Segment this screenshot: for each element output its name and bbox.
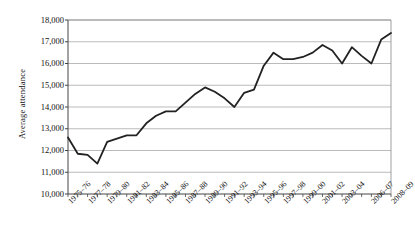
data-series-line (68, 33, 391, 164)
